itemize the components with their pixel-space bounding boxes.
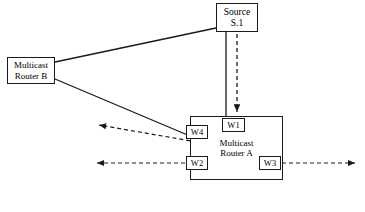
node-router-b-label-line1: Multicast bbox=[14, 60, 48, 70]
diagram-connections-layer bbox=[0, 0, 365, 212]
node-router-a-label-line1: Multicast bbox=[190, 138, 283, 148]
flow-w4-outbound-arrow bbox=[99, 125, 197, 142]
port-w4-label: W4 bbox=[191, 127, 203, 137]
port-w3-label: W3 bbox=[264, 158, 276, 168]
port-w2-label: W2 bbox=[191, 158, 203, 168]
link-router-b-to-source bbox=[55, 28, 216, 62]
port-w1-label: W1 bbox=[227, 120, 239, 130]
port-w1[interactable]: W1 bbox=[222, 118, 245, 132]
diagram-canvas: Source S.1 Multicast Router B Multicast … bbox=[0, 0, 365, 212]
node-multicast-router-b[interactable]: Multicast Router B bbox=[7, 57, 55, 84]
port-w2[interactable]: W2 bbox=[186, 156, 208, 170]
node-source-label-line1: Source bbox=[224, 7, 250, 18]
port-w3[interactable]: W3 bbox=[259, 156, 281, 170]
node-source-label-line2: S.1 bbox=[231, 18, 243, 29]
node-router-b-label-line2: Router B bbox=[15, 71, 48, 81]
port-w4[interactable]: W4 bbox=[186, 125, 208, 139]
node-source[interactable]: Source S.1 bbox=[216, 3, 258, 32]
